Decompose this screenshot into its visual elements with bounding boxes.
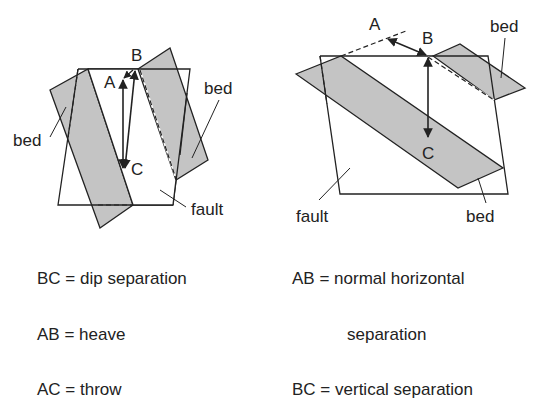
- right-point-a: A: [369, 15, 381, 34]
- right-fault-label: fault: [296, 207, 328, 226]
- legend-row: AB = normal horizontal: [292, 270, 473, 289]
- left-legend: BC = dip separation AB = heave AC = thro…: [37, 233, 187, 402]
- legend-row: separation: [292, 326, 473, 345]
- legend-row: AB = heave: [37, 326, 187, 345]
- right-legend: AB = normal horizontal separation BC = v…: [292, 233, 473, 402]
- left-point-c: C: [131, 160, 143, 179]
- right-point-b: B: [422, 29, 433, 48]
- upper-bed-block: [433, 44, 525, 100]
- left-bed-label: bed: [13, 131, 41, 150]
- upper-bed-label: bed: [490, 17, 518, 36]
- right-bed-label: bed: [204, 79, 232, 98]
- legend-row: AC = throw: [37, 381, 187, 400]
- left-fault-label: fault: [191, 200, 223, 219]
- right-diagram: A B C bed bed fault: [296, 15, 525, 226]
- left-point-a: A: [104, 73, 116, 92]
- legend-row: BC = vertical separation: [292, 381, 473, 400]
- left-point-b: B: [131, 46, 142, 65]
- left-diagram: B A C bed bed fault: [13, 46, 232, 228]
- right-point-c: C: [422, 144, 434, 163]
- lower-bed-label: bed: [466, 207, 494, 226]
- legend-row: BC = dip separation: [37, 270, 187, 289]
- normal-horizontal-separation-arrow: [388, 39, 426, 55]
